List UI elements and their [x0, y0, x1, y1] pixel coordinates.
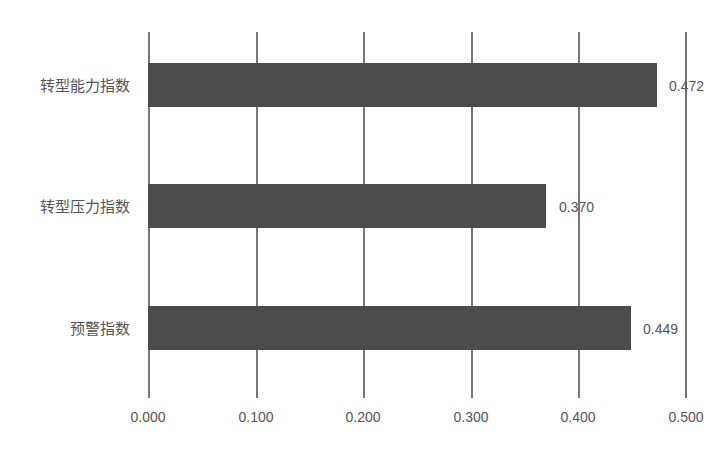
- category-label: 转型能力指数: [40, 74, 130, 95]
- data-label: 0.370: [559, 199, 594, 215]
- x-tick-label: 0.200: [345, 409, 380, 425]
- data-label: 0.472: [669, 78, 704, 94]
- category-label: 转型压力指数: [40, 195, 130, 216]
- x-tick-label: 0.300: [453, 409, 488, 425]
- bar-warning-index: [148, 306, 631, 350]
- x-tick-label: 0.400: [560, 409, 595, 425]
- bar-transformation-pressure: [148, 184, 546, 228]
- x-tick-label: 0.500: [668, 409, 703, 425]
- x-tick-label: 0.000: [130, 409, 165, 425]
- data-label: 0.449: [643, 321, 678, 337]
- bar-chart: 转型能力指数 转型压力指数 预警指数 0.472 0.370 0.449 0.0…: [0, 0, 726, 453]
- x-tick-label: 0.100: [238, 409, 273, 425]
- bar-transformation-capability: [148, 63, 657, 107]
- category-label: 预警指数: [70, 317, 130, 338]
